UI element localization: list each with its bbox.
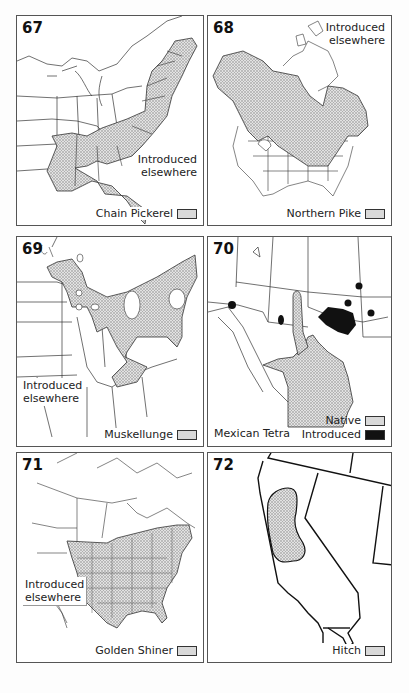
range-map-chain-pickerel xyxy=(17,16,204,226)
legend: Muskellunge xyxy=(104,428,197,441)
legend: Native Introduced xyxy=(302,413,385,441)
map-number: 70 xyxy=(213,240,234,258)
stipple-swatch-icon xyxy=(177,430,197,440)
legend-label: Chain Pickerel xyxy=(96,207,173,220)
map-panel-72: 72 Hitch xyxy=(207,452,392,663)
legend-label: Hitch xyxy=(332,644,361,657)
stipple-swatch-icon xyxy=(177,209,197,219)
black-swatch-icon xyxy=(365,430,385,440)
stipple-swatch-icon xyxy=(365,209,385,219)
map-number: 69 xyxy=(22,240,43,258)
map-panel-71: 71 Introduced elsewhere Golden Shiner xyxy=(16,452,204,663)
map-panel-69: 69 Introduced elsewhere Muskellunge xyxy=(16,236,204,447)
native-range-chain-pickerel xyxy=(47,38,197,224)
legend: Golden Shiner xyxy=(95,644,197,657)
introduced-note: Introduced elsewhere xyxy=(138,153,197,179)
stipple-swatch-icon xyxy=(365,646,385,656)
stipple-swatch-icon xyxy=(177,646,197,656)
map-number: 68 xyxy=(213,19,234,37)
legend-item-native: Native xyxy=(302,414,385,427)
introduced-note: Introduced elsewhere xyxy=(324,20,387,48)
legend-item-introduced: Introduced xyxy=(302,428,385,441)
legend-label: Northern Pike xyxy=(286,207,361,220)
map-number: 71 xyxy=(22,456,43,474)
map-number: 67 xyxy=(22,19,43,37)
legend-label: Golden Shiner xyxy=(95,644,173,657)
legend: Northern Pike xyxy=(286,207,385,220)
native-range-northern-pike xyxy=(213,51,368,166)
introduced-note: Introduced elsewhere xyxy=(23,577,87,606)
map-number: 72 xyxy=(213,456,234,474)
map-panel-67: 67 Introduced elsewhere Chain Pickerel xyxy=(16,15,204,226)
map-panel-68: 68 Introduced elsewhere Northern Pike xyxy=(207,15,392,226)
legend: Hitch xyxy=(332,644,385,657)
map-panel-70: 70 Mexican Tetra Native Introduced xyxy=(207,236,392,447)
introduced-range-mexican-tetra xyxy=(318,307,356,335)
range-map-muskellunge xyxy=(17,237,204,447)
range-map-hitch xyxy=(208,453,392,663)
native-range-muskellunge xyxy=(47,255,197,387)
species-name: Mexican Tetra xyxy=(214,427,290,440)
range-map-golden-shiner xyxy=(17,453,204,663)
legend-label: Native xyxy=(325,414,361,427)
legend-label: Introduced xyxy=(302,428,361,441)
stipple-swatch-icon xyxy=(365,416,385,426)
legend-label: Muskellunge xyxy=(104,428,173,441)
introduced-note: Introduced elsewhere xyxy=(21,378,84,406)
native-range-hitch xyxy=(267,488,304,562)
legend: Chain Pickerel xyxy=(96,207,197,220)
